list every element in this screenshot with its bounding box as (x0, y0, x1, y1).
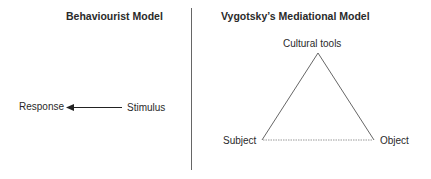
stimulus-label: Stimulus (127, 102, 165, 113)
object-label: Object (380, 135, 409, 146)
triangle-left-side (262, 53, 318, 140)
response-label: Response (19, 101, 64, 112)
behaviourist-title: Behaviourist Model (66, 10, 163, 22)
arrowhead-icon (66, 104, 74, 111)
cultural-tools-label: Cultural tools (283, 38, 341, 49)
subject-label: Subject (223, 135, 256, 146)
vygotsky-title: Vygotsky’s Mediational Model (221, 10, 370, 22)
diagram-canvas (0, 0, 431, 179)
triangle-right-side (318, 53, 374, 140)
